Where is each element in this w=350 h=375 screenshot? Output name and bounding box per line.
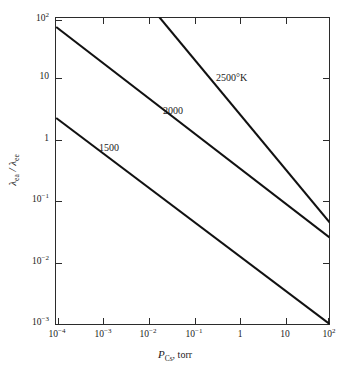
x-tick-label: 1 — [238, 330, 243, 340]
x-tick-mark — [286, 318, 287, 324]
y-tick-label: 10−2 — [25, 257, 49, 267]
y-tick-mark — [56, 201, 62, 202]
curve-label-2500k: 2500°K — [216, 72, 247, 83]
x-tick-mark — [240, 318, 241, 324]
y-tick-mark-right — [323, 263, 329, 264]
x-tick-label: 10−3 — [95, 330, 112, 340]
y-tick-mark — [56, 140, 62, 141]
y-tick-mark-right — [323, 140, 329, 141]
x-tick-label: 10 — [280, 330, 290, 340]
y-tick-mark-right — [323, 201, 329, 202]
x-tick-label: 10−2 — [140, 330, 157, 340]
x-tick-label: 10−4 — [49, 330, 66, 340]
y-tick-mark — [56, 263, 62, 264]
y-tick-label: 10 — [25, 72, 49, 82]
x-tick-label: 10−1 — [186, 330, 203, 340]
y-tick-mark — [56, 20, 62, 21]
plot-area — [55, 17, 330, 325]
y-tick-mark-right — [323, 78, 329, 79]
y-tick-mark — [56, 324, 62, 325]
y-tick-label: 1 — [25, 134, 49, 144]
x-tick-mark — [328, 318, 329, 324]
y-tick-label: 10−3 — [25, 318, 49, 328]
y-tick-mark — [56, 78, 62, 79]
y-tick-label: 10−1 — [25, 195, 49, 205]
x-tick-mark-top — [149, 18, 150, 24]
curve-label-1500: 1500 — [99, 142, 119, 153]
curve-label-2000: 2000 — [163, 105, 183, 116]
x-tick-mark-top — [286, 18, 287, 24]
x-tick-mark — [195, 318, 196, 324]
x-axis-title: PCs, torr — [158, 348, 192, 360]
figure-chart: 10−4 10−3 10−2 10−1 1 10 102 102 10 1 10… — [0, 0, 350, 375]
x-tick-label: 102 — [323, 330, 336, 340]
y-axis-title: λea / λee — [6, 154, 18, 185]
x-tick-mark-top — [240, 18, 241, 24]
y-tick-label: 102 — [25, 14, 49, 24]
x-tick-mark-top — [103, 18, 104, 24]
x-tick-mark — [149, 318, 150, 324]
x-tick-mark-top — [195, 18, 196, 24]
x-tick-mark — [103, 318, 104, 324]
